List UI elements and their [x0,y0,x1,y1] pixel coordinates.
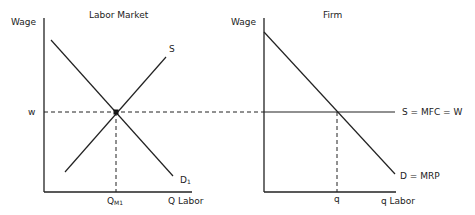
right-y-axis-label: Wage [231,17,257,27]
market-quantity-label: QM1 [107,196,123,206]
firm-demand-label: D = MRP [400,171,440,181]
left-y-axis-label: Wage [11,17,37,27]
market-quantity-main: Q [107,196,114,206]
demand-label: D1 [180,175,191,185]
left-x-axis-label: Q Labor [168,196,204,206]
wage-level-label: w [28,107,35,117]
labor-market-title: Labor Market [89,10,149,20]
firm-title: Firm [323,10,342,20]
firm-supply-label: S = MFC = W [402,107,462,117]
supply-label: S [169,44,175,54]
labor-market-panel: Labor Market Wage Q Labor S D1 w QM1 [11,10,204,206]
demand-label-main: D [180,175,187,185]
diagram-canvas: Labor Market Wage Q Labor S D1 w QM1 Fir… [0,0,475,215]
firm-quantity-label: q [334,194,340,204]
right-x-axis-label: q Labor [381,196,415,206]
labor-market-diagram: Labor Market Wage Q Labor S D1 w QM1 Fir… [0,0,475,215]
demand-curve-d1 [51,40,173,176]
market-quantity-sub: M1 [114,199,123,206]
demand-label-sub: 1 [187,178,191,185]
firm-panel: Firm Wage q Labor S = MFC = W D = MRP q [231,10,462,206]
firm-demand-mrp-line [264,32,395,174]
